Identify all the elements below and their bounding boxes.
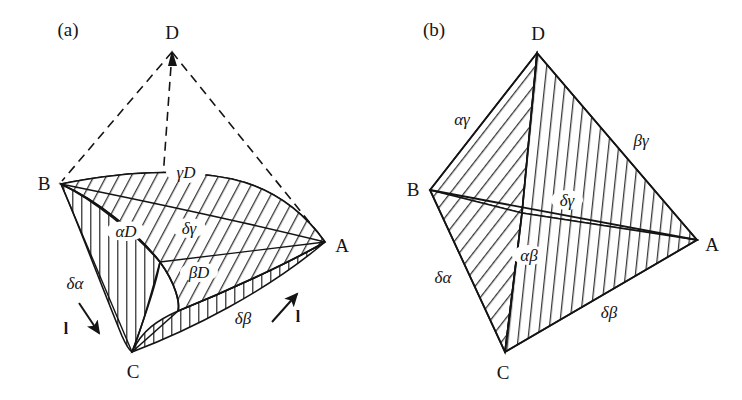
panel-a-vertex-C: C — [127, 362, 140, 381]
panel-a-label-delta-gamma: δγ — [182, 220, 197, 237]
panel-b-label-delta-gamma: δγ — [560, 192, 575, 209]
panel-a-label-beta-D: βD — [189, 264, 210, 281]
panel-a-vertex-D: D — [165, 23, 179, 42]
panel-a-label-alpha-D: αD — [115, 223, 136, 240]
panel-a-label-delta-alpha: δα — [67, 275, 84, 292]
slip-arrow-left-label: l — [64, 321, 68, 337]
panel-a-tag: (a) — [57, 20, 78, 39]
panel-b-vertex-D: D — [531, 24, 545, 43]
panel-b-label-beta-gamma: βγ — [633, 132, 648, 149]
figure-canvas — [0, 0, 742, 400]
panel-b-label-delta-beta: δβ — [601, 304, 617, 321]
panel-a-vertex-B: B — [38, 174, 51, 193]
panel-a-label-gamma-D: γD — [177, 164, 196, 181]
panel-b-label-alpha-gamma: αγ — [454, 111, 470, 128]
panel-b-vertex-A: A — [705, 235, 719, 254]
panel-b-label-delta-alpha: δα — [435, 269, 452, 286]
panel-b-vertex-C: C — [497, 363, 510, 382]
panel-b-face-DBdelta — [430, 53, 537, 213]
panel-b-tag: (b) — [423, 20, 445, 39]
panel-b-label-alpha-beta: αβ — [520, 247, 537, 264]
dashed-edge-arrowhead — [168, 50, 177, 66]
slip-arrow-right-label: l — [296, 309, 300, 325]
figure-root: (a) (b) D B A C γD αD δγ βD δα δβ l l D … — [0, 0, 742, 400]
slip-arrow-left — [79, 303, 99, 333]
panel-a-drawing — [61, 50, 325, 352]
panel-b-vertex-B: B — [407, 180, 420, 199]
dashed-edge-DB — [62, 52, 172, 181]
panel-a-label-delta-beta: δβ — [235, 310, 251, 327]
panel-a-vertex-A: A — [335, 236, 349, 255]
slip-arrow-right — [272, 294, 297, 322]
